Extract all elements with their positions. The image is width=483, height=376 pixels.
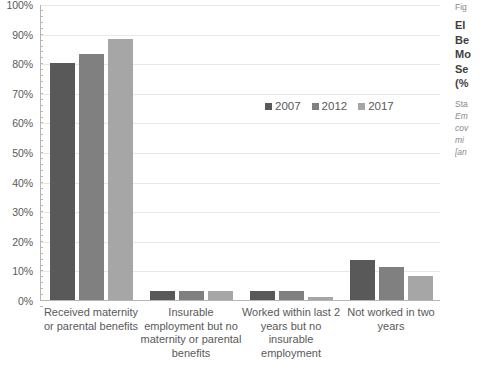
bar — [408, 276, 433, 300]
x-axis-category-line: benefits — [136, 347, 246, 361]
bar — [79, 54, 104, 300]
caption-source-line: cov — [455, 122, 483, 134]
y-axis-tick-label: 70% — [12, 89, 33, 100]
y-axis-tick-label: 10% — [12, 266, 33, 277]
x-axis-labels: Received maternityor parental benefitsIn… — [41, 306, 440, 376]
y-axis-labels: 100%90%80%70%60%50%40%30%20%10%0% — [0, 0, 36, 305]
x-axis-category-label: Received maternityor parental benefits — [36, 306, 146, 333]
caption-source-line: mi — [455, 134, 483, 146]
x-axis-category-line: employment — [236, 347, 346, 361]
y-axis-tick-label: 50% — [12, 148, 33, 159]
bar — [279, 291, 304, 300]
legend-label: 2017 — [368, 100, 394, 112]
caption-title: EIBeMoSe(% — [455, 18, 483, 91]
bar — [108, 39, 133, 300]
x-axis-category-line: insurable — [236, 333, 346, 347]
bar-group — [350, 5, 433, 300]
bars-layer — [41, 5, 440, 300]
chart-legend: 200720122017 — [265, 100, 394, 112]
caption-source-line: Em — [455, 110, 483, 122]
bar-group — [50, 5, 133, 300]
x-axis-category-line: Insurable — [136, 306, 246, 320]
caption-title-line: (% — [455, 76, 483, 91]
legend-label: 2012 — [322, 100, 348, 112]
legend-entry: 2017 — [358, 100, 394, 112]
y-axis-tick-label: 80% — [12, 59, 33, 70]
x-axis-category-label: Worked within last 2years but noinsurabl… — [236, 306, 346, 360]
y-axis-tick-label: 0% — [18, 296, 33, 307]
x-axis-category-label: Not worked in twoyears — [336, 306, 446, 333]
plot-area — [40, 5, 440, 301]
bar — [379, 267, 404, 300]
x-axis-category-line: Not worked in two — [336, 306, 446, 320]
caption-figure-number: Fig — [455, 2, 483, 13]
legend-entry: 2012 — [312, 100, 348, 112]
y-axis-tick-label: 60% — [12, 118, 33, 129]
bar-chart-figure: 100%90%80%70%60%50%40%30%20%10%0% 200720… — [0, 0, 445, 376]
x-axis-category-line: years — [336, 320, 446, 334]
bar — [179, 291, 204, 300]
bar — [150, 291, 175, 300]
x-axis-category-label: Insurableemployment but nomaternity or p… — [136, 306, 246, 360]
y-axis-tick-label: 30% — [12, 207, 33, 218]
y-axis-tick-label: 40% — [12, 177, 33, 188]
legend-swatch-icon — [265, 103, 272, 110]
legend-swatch-icon — [358, 103, 365, 110]
caption-title-line: Se — [455, 62, 483, 77]
caption-column: Fig EIBeMoSe(% StaEmcovmi[an — [455, 0, 483, 376]
legend-label: 2007 — [275, 100, 301, 112]
y-axis-tick-label: 100% — [7, 0, 33, 10]
x-axis-category-line: years but no — [236, 320, 346, 334]
bar-group — [150, 5, 233, 300]
caption-source-note: StaEmcovmi[an — [455, 98, 483, 158]
caption-title-line: EI — [455, 18, 483, 33]
bar-group — [250, 5, 333, 300]
bar — [208, 291, 233, 300]
y-axis-tick-label: 90% — [12, 29, 33, 40]
bar — [308, 297, 333, 300]
caption-source-line: Sta — [455, 98, 483, 110]
legend-entry: 2007 — [265, 100, 301, 112]
x-axis-category-line: Received maternity — [36, 306, 146, 320]
caption-title-line: Mo — [455, 47, 483, 62]
legend-swatch-icon — [312, 103, 319, 110]
y-axis-tick-label: 20% — [12, 237, 33, 248]
bar — [250, 291, 275, 300]
x-axis-category-line: or parental benefits — [36, 320, 146, 334]
caption-source-line: [an — [455, 146, 483, 158]
x-axis-category-line: maternity or parental — [136, 333, 246, 347]
caption-title-line: Be — [455, 33, 483, 48]
bar — [350, 260, 375, 300]
chart-page: 100%90%80%70%60%50%40%30%20%10%0% 200720… — [0, 0, 483, 376]
x-axis-category-line: Worked within last 2 — [236, 306, 346, 320]
bar — [50, 63, 75, 300]
x-axis-category-line: employment but no — [136, 320, 246, 334]
